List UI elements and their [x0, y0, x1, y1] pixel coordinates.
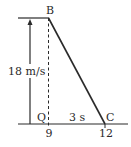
interval-label: 3 s [69, 111, 85, 124]
velocity-label: 18 m/s [8, 65, 46, 78]
point-label-c: C [106, 111, 114, 124]
velocity-time-diagram: B 18 m/s Q 3 s C 9 12 [0, 0, 131, 147]
point-label-q: Q [37, 111, 46, 124]
tick-label-12: 12 [99, 127, 113, 140]
arrow-head-icon [28, 19, 33, 25]
tick-label-9: 9 [46, 127, 53, 140]
deceleration-line [49, 18, 106, 124]
point-label-b: B [46, 4, 54, 17]
